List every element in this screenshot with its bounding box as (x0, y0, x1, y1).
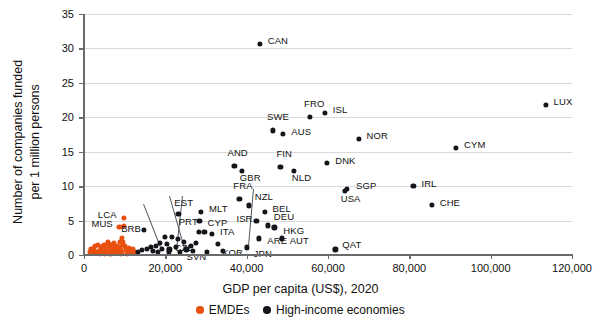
gridline (84, 83, 572, 84)
point-label-can: CAN (268, 35, 288, 46)
x-tick-label: 100,000 (471, 262, 511, 274)
y-tick-mark (79, 117, 84, 118)
data-point-cze[interactable] (175, 237, 180, 242)
point-label-aut: AUT (290, 235, 309, 246)
y-tick-mark (79, 186, 84, 187)
y-axis-title-line-2: per 1 million persons (27, 27, 44, 257)
data-point-isr[interactable] (254, 219, 259, 224)
point-label-che: CHE (440, 197, 460, 208)
data-point-are[interactable] (257, 236, 262, 241)
data-point-deu[interactable] (265, 223, 270, 228)
x-tick-mark (247, 254, 248, 259)
data-point-mlt[interactable] (199, 210, 204, 215)
point-label-ita: ITA (220, 226, 234, 237)
data-point-kor[interactable] (216, 241, 221, 246)
data-point-ita[interactable] (210, 231, 215, 236)
y-axis-title-line-1: Number of companies funded (10, 27, 27, 257)
point-label-kor: KOR (222, 247, 243, 258)
x-tick-mark (328, 254, 329, 259)
x-axis-title: GDP per capita (US$), 2020 (0, 282, 601, 296)
data-point-bel[interactable] (262, 209, 267, 214)
point-label-are: ARE (267, 235, 287, 246)
gridline (84, 14, 572, 15)
data-point[interactable] (164, 241, 169, 246)
data-point[interactable] (194, 241, 199, 246)
gridline (84, 48, 572, 49)
point-label-swe: SWE (267, 111, 289, 122)
y-tick-mark (79, 221, 84, 222)
legend-label-emdes: EMDEs (209, 303, 250, 317)
data-point-fro[interactable] (308, 115, 313, 120)
x-tick-mark (165, 254, 166, 259)
data-point-cym[interactable] (454, 145, 459, 150)
data-point-nor[interactable] (356, 136, 361, 141)
y-tick-label: 15 (62, 146, 74, 158)
data-point-che[interactable] (429, 202, 434, 207)
point-label-nor: NOR (367, 130, 388, 141)
data-point[interactable] (169, 235, 174, 240)
data-point[interactable] (202, 229, 207, 234)
point-label-aus: AUS (291, 126, 311, 137)
point-label-isr: ISR (236, 213, 252, 224)
point-label-nld: NLD (292, 172, 311, 183)
x-tick-mark (491, 254, 492, 259)
gridline (84, 152, 572, 153)
legend-item-high-income[interactable]: High-income economies (263, 303, 404, 317)
legend-swatch-emdes-icon (196, 306, 204, 314)
point-label-est: EST (174, 197, 193, 208)
data-point-can[interactable] (257, 41, 262, 46)
data-point-fra[interactable] (237, 197, 242, 202)
point-label-fro: FRO (304, 98, 324, 109)
data-point-isl[interactable] (322, 111, 327, 116)
x-tick-mark (84, 254, 85, 259)
data-point-prt[interactable] (196, 229, 201, 234)
data-point-irl[interactable] (411, 184, 416, 189)
legend-item-emdes[interactable]: EMDEs (196, 303, 249, 317)
gridline (84, 117, 572, 118)
x-tick-label: 120,000 (552, 262, 592, 274)
point-label-mlt: MLT (209, 203, 228, 214)
gridline (84, 221, 572, 222)
data-point-and[interactable] (232, 164, 237, 169)
point-label-dnk: DNK (335, 155, 355, 166)
scatter-chart-figure: LCAMUSCANLUXISLFROSWEAUSNORCYMANDGBRFINN… (0, 0, 601, 324)
data-point-qat[interactable] (333, 247, 338, 252)
point-label-mus: MUS (91, 218, 112, 229)
point-label-cym: CYM (464, 139, 485, 150)
x-tick-label: 40,000 (230, 262, 264, 274)
y-tick-label: 10 (62, 180, 74, 192)
point-label-qat: QAT (342, 239, 361, 250)
x-tick-mark (572, 254, 573, 259)
gridline (84, 186, 572, 187)
x-tick-label: 0 (81, 262, 87, 274)
y-tick-mark (79, 152, 84, 153)
y-axis-line (83, 14, 85, 255)
point-label-lux: LUX (554, 96, 573, 107)
data-point[interactable] (162, 235, 167, 240)
data-point-dnk[interactable] (325, 160, 330, 165)
data-point-swe[interactable] (271, 128, 276, 133)
point-label-fra: FRA (233, 180, 252, 191)
data-point[interactable] (144, 246, 149, 251)
legend-label-high-income: High-income economies (276, 303, 405, 317)
x-tick-label: 60,000 (311, 262, 345, 274)
y-axis-title: Number of companies funded per 1 million… (10, 27, 44, 257)
data-point-hkg[interactable] (272, 225, 277, 230)
point-label-sgp: SGP (356, 180, 376, 191)
data-point-brb[interactable] (142, 228, 147, 233)
chart-legend: EMDEs High-income economies (0, 303, 601, 317)
y-tick-label: 5 (68, 215, 74, 227)
y-tick-label: 30 (62, 42, 74, 54)
data-point-aus[interactable] (281, 131, 286, 136)
x-tick-label: 20,000 (149, 262, 183, 274)
data-point-lux[interactable] (543, 102, 548, 107)
y-tick-mark (79, 14, 84, 15)
y-tick-label: 25 (62, 77, 74, 89)
x-tick-mark (409, 254, 410, 259)
y-tick-label: 20 (62, 111, 74, 123)
data-point-jpn[interactable] (244, 245, 249, 250)
data-point-fin[interactable] (278, 164, 283, 169)
point-label-nzl: NZL (255, 191, 273, 202)
y-tick-mark (79, 48, 84, 49)
y-tick-label: 35 (62, 8, 74, 20)
